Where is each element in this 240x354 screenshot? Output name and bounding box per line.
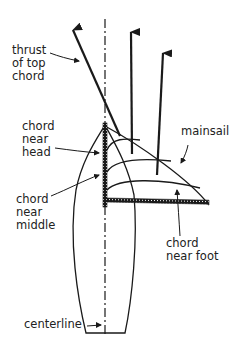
label-mainsail: mainsail	[181, 125, 229, 138]
label-line: head	[22, 146, 54, 159]
mast	[103, 123, 107, 207]
label-line: chord	[12, 70, 46, 83]
label-chord-near-middle: chord near middle	[16, 193, 55, 232]
callout-mainsail-arrow	[181, 145, 188, 163]
label-line: mainsail	[181, 125, 229, 138]
label-line: middle	[16, 219, 55, 232]
label-centerline: centerline	[24, 318, 82, 331]
callout-foot-arrow	[177, 190, 180, 236]
label-line: centerline	[24, 318, 82, 331]
label-chord-near-foot: chord near foot	[166, 237, 218, 263]
label-thrust-of-top-chord: thrust of top chord	[12, 44, 46, 83]
boom	[106, 198, 209, 204]
callout-centerline-arrow	[87, 325, 101, 326]
thrust-middle-chord-arrow	[157, 53, 163, 175]
thrust-head-chord-arrow	[131, 32, 132, 154]
label-line: near foot	[166, 250, 218, 263]
thrust-top-chord-arrow	[73, 30, 120, 136]
label-chord-near-head: chord near head	[22, 120, 54, 159]
callout-head-arrow	[55, 148, 99, 153]
callout-thrust-arrow	[50, 53, 79, 61]
